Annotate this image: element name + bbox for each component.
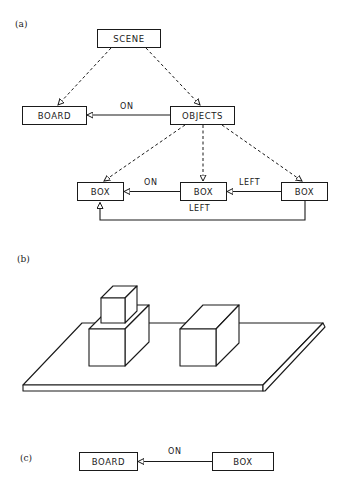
node-box-right: BOX — [281, 182, 328, 201]
node-scene: SCENE — [97, 29, 161, 48]
edge-label-c-on: ON — [168, 447, 181, 456]
panel-b-label: (b) — [17, 254, 30, 264]
edge-label-box-on-box: ON — [144, 178, 157, 187]
figure: (a) — [0, 0, 339, 480]
node-c-box: BOX — [212, 452, 274, 471]
edge-label-box-left-of-box-loop: LEFT — [189, 204, 210, 213]
node-box-middle: BOX — [180, 182, 227, 201]
node-box-left: BOX — [77, 182, 124, 201]
edge-label-box-left-of-box: LEFT — [239, 178, 260, 187]
node-objects: OBJECTS — [170, 106, 235, 125]
diagram-lines — [0, 0, 339, 480]
edge-label-objects-on-board: ON — [120, 102, 133, 111]
panel-c-label: (c) — [20, 453, 32, 463]
node-board: BOARD — [22, 106, 87, 125]
scene-drawing — [23, 286, 325, 391]
node-c-board: BOARD — [79, 452, 138, 471]
